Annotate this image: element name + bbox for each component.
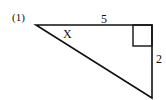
top-side-length-label: 5 bbox=[101, 13, 107, 25]
right-angle-marker bbox=[133, 25, 152, 46]
right-side-length-label: 2 bbox=[156, 53, 162, 65]
triangle-outline bbox=[36, 25, 152, 98]
angle-x-label: X bbox=[63, 28, 72, 40]
right-triangle-diagram: (1) 5 X 2 bbox=[0, 0, 166, 100]
problem-number: (1) bbox=[12, 12, 25, 23]
